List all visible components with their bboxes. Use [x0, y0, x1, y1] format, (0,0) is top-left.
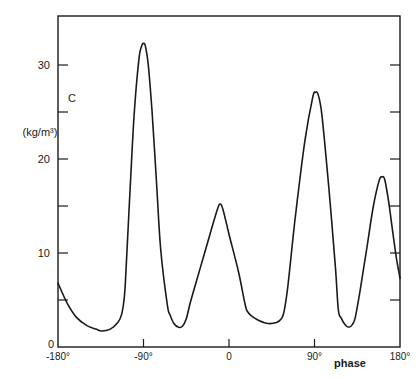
- y-tick-label-zero: 0: [48, 338, 54, 350]
- x-tick-label: 180°: [390, 351, 411, 362]
- x-axis-title: phase: [334, 357, 366, 369]
- x-tick-label: 0: [226, 351, 232, 362]
- x-tick-label: -90°: [134, 351, 152, 362]
- plot-border: [58, 16, 400, 347]
- axis-ticks: [58, 65, 400, 347]
- y-tick-label: 10: [38, 247, 50, 259]
- data-curve-c: [58, 43, 400, 331]
- y-axis-title: C: [68, 92, 76, 104]
- plot-frame: [58, 16, 400, 347]
- y-axis-unit: (kg/m³): [23, 126, 58, 138]
- x-tick-label: -180°: [46, 351, 70, 362]
- chart-canvas: 1020300-180°-90°090°180° C (kg/m³) phase: [0, 0, 420, 379]
- x-tick-label: 90°: [307, 351, 322, 362]
- y-tick-label: 20: [38, 153, 50, 165]
- y-tick-label: 30: [38, 59, 50, 71]
